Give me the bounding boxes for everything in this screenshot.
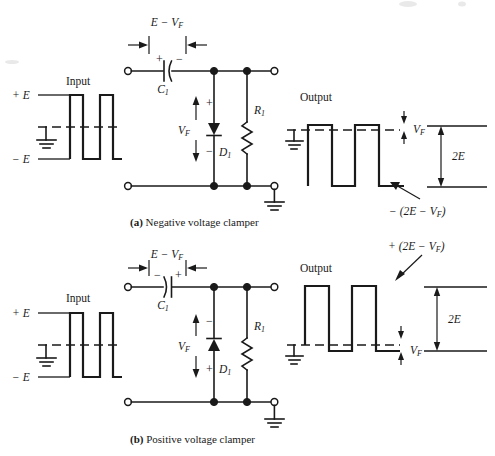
output-terminal-top-b[interactable] [271,284,278,291]
peak-callout-b: + (2E − VF) [388,240,445,281]
diode-sign-top-b: − [206,314,213,328]
cap-sign-right-b: + [175,268,182,282]
cap-plate-right-a [169,61,172,81]
vf-arrow-up-b [193,314,200,323]
resistor-label-a: R1 [253,104,265,118]
output-vf-dimension-a: VF [401,111,425,144]
dim-arrow-left-a [139,41,148,48]
output-title-b: Output [300,262,333,275]
vf-out-arrow-up-a [401,131,407,139]
vf-arrow-down-b [193,369,200,378]
top-rail-a [125,68,278,75]
span-2e-dimension-a: 2E [438,126,465,187]
input-terminal-bottom-a[interactable] [125,183,132,190]
vf-arrow-down-a [193,153,200,162]
vf-out-label-a: VF [413,123,425,137]
peak-leader-arrow-b [395,270,405,281]
output-waveform-b: Output VF [286,240,487,365]
resistor-zigzag-a [242,122,252,154]
diode-drop-dimension-a: VF + − [178,96,213,162]
output-terminal-top-a[interactable] [271,68,278,75]
output-wave-trace-b [305,286,400,351]
capacitor-dimension-b: E − VF [128,248,207,276]
resistor-branch-a: R1 [242,67,265,189]
diode-sign-top-a: + [206,96,213,110]
cap-dim-label-b: E − VF [150,248,184,262]
diode-label-b: D1 [218,363,231,377]
dim-arrow-right-b [187,264,196,271]
span-2e-arrow-top-b [434,287,440,296]
input-title-b: Input [66,292,91,305]
level-plus-e-label-a: + E [12,89,30,101]
diode-branch-a: D1 VF + − [178,67,231,189]
capacitor-dimension-a: E − VF [128,16,207,54]
span-2e-arrow-top-a [438,126,444,135]
input-terminal-top-a[interactable] [125,68,132,75]
diode-triangle-a [208,123,220,135]
cap-sign-left-a: + [156,52,163,66]
peak-label-b: + (2E − VF) [388,240,445,254]
dim-arrow-left-b [139,264,148,271]
diode-triangle-b [208,339,220,351]
cap-dim-label-a: E − VF [150,16,184,30]
peak-label-a: − (2E − VF) [389,205,446,219]
figure-voltage-clampers: E − VF + − C1 [0,0,495,456]
output-vf-dimension-b: VF [398,326,422,365]
output-title-a: Output [300,91,333,104]
bottom-rail-b [125,399,284,427]
cap-plate-left-b [164,277,167,297]
panel-b-positive-clamper: E − VF − + C1 [0,230,495,456]
output-terminal-bottom-a[interactable] [271,183,278,190]
capacitor-c1-b: − + C1 [154,268,182,313]
dim-arrow-right-a [187,41,196,48]
output-wave-trace-a [308,125,404,186]
cap-label-a: C1 [157,83,169,97]
span-2e-arrow-bottom-b [434,342,440,351]
peak-leader-line-a [394,184,420,199]
span-2e-label-b: 2E [448,313,461,325]
diode-sign-bottom-a: − [206,144,213,158]
caption-a: (a) Negative voltage clamper [130,216,259,229]
diode-drop-dimension-b: VF − + [178,314,213,378]
diode-sign-bottom-b: + [206,362,213,376]
capacitor-c1-a: + − C1 [156,52,183,97]
output-ground-icon-b [286,345,303,364]
resistor-zigzag-b [242,338,252,370]
vf-out-label-b: VF [410,344,422,358]
vf-out-arrow-down-b [398,331,404,339]
caption-b: (b) Positive voltage clamper [130,433,255,446]
input-title-a: Input [66,75,91,88]
bottom-rail-a [125,183,284,210]
span-2e-dimension-b: 2E [434,287,461,351]
circuit-ground-icon-a [265,202,284,210]
cap-sign-left-b: − [154,268,161,282]
cap-sign-right-a: − [176,52,183,66]
output-terminal-bottom-b[interactable] [271,399,278,406]
vf-label-a: VF [178,124,190,138]
input-terminal-bottom-b[interactable] [125,399,132,406]
input-ground-icon-a [37,127,56,148]
vf-out-arrow-down-a [401,116,407,124]
output-ground-icon-a [286,130,303,149]
cap-label-b: C1 [157,299,169,313]
diode-branch-b: D1 VF − + [178,283,231,405]
panel-a-negative-clamper: E − VF + − C1 [0,0,495,230]
span-2e-arrow-bottom-a [438,178,444,187]
resistor-branch-b: R1 [242,283,265,405]
input-ground-icon-b [37,345,56,366]
level-plus-e-label-b: + E [12,307,30,319]
input-waveform-a: Input + E − E [12,75,122,165]
level-minus-e-label-b: − E [12,371,30,383]
resistor-label-b: R1 [253,320,265,334]
scan-artifact [5,1,466,64]
circuit-ground-icon-b [265,419,284,427]
diode-label-a: D1 [218,146,231,160]
vf-arrow-up-a [193,96,200,105]
vf-label-b: VF [178,340,190,354]
level-minus-e-label-a: − E [12,153,30,165]
input-terminal-top-b[interactable] [125,284,132,291]
span-2e-label-a: 2E [452,150,465,162]
vf-out-arrow-up-b [398,352,404,360]
top-rail-b [125,284,278,291]
input-waveform-b: Input + E − E [12,292,122,383]
